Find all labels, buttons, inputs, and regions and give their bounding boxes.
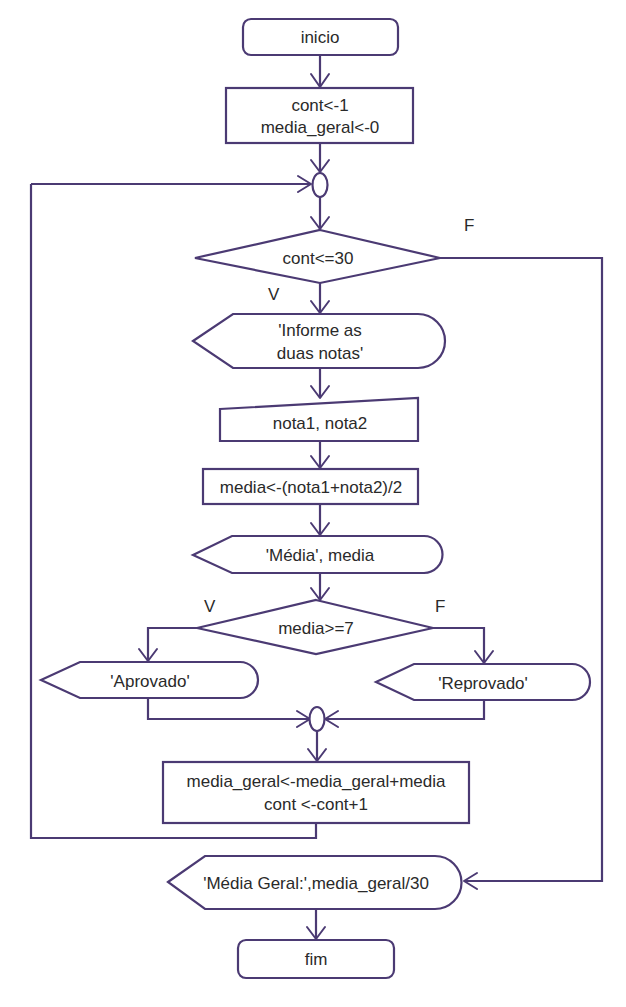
init-line1: cont<-1 <box>291 95 348 116</box>
flowchart-canvas <box>0 0 626 1007</box>
failed-label: 'Reprovado' <box>438 673 528 694</box>
prompt-line1: 'Informe as <box>278 320 362 341</box>
show-total-label: 'Média Geral:',media_geral/30 <box>203 873 429 894</box>
accumulate-line2: cont <-cont+1 <box>264 794 368 815</box>
grade-true-label: V <box>204 597 215 617</box>
loop-false-label: F <box>464 216 474 236</box>
grade-condition-label: media>=7 <box>278 618 354 639</box>
show-media-label: 'Média', media <box>266 545 375 566</box>
loop-condition-label: cont<=30 <box>283 248 354 269</box>
approved-label: 'Aprovado' <box>110 671 189 692</box>
merge-connector-circle <box>310 707 325 731</box>
start-label: inicio <box>301 27 340 48</box>
loop-connector-circle <box>313 173 328 197</box>
merge-line-left <box>148 698 310 719</box>
grade-false-label: F <box>435 597 445 617</box>
end-label: fim <box>305 949 328 970</box>
true-branch-line <box>148 628 197 661</box>
compute-label: media<-(nota1+nota2)/2 <box>220 477 402 498</box>
init-line2: media_geral<-0 <box>261 117 380 138</box>
prompt-line2: duas notas' <box>277 343 363 364</box>
read-label: nota1, nota2 <box>273 413 368 434</box>
false-branch-line <box>433 628 484 663</box>
accumulate-line1: media_geral<-media_geral+media <box>187 771 446 792</box>
loop-back-line <box>31 184 316 838</box>
loop-true-label: V <box>268 285 279 305</box>
merge-line-right <box>325 700 484 719</box>
